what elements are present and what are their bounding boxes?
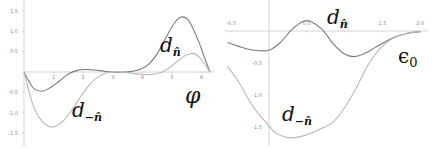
x-tick-label: 1: [52, 74, 55, 80]
label-d-minus-n: d−n̂: [72, 98, 102, 124]
plot-left: 1234561.51.00.5-0.5-1.0-1.5dn̂d−n̂φ: [8, 0, 214, 146]
series-d-minus-n-line: [227, 32, 420, 138]
x-tick-label: 1.5: [378, 20, 386, 26]
x-tick-label: 6: [200, 74, 203, 80]
x-tick-label: 3: [111, 74, 114, 80]
y-tick-label: -1.0: [8, 110, 18, 116]
x-axis-label: φ: [185, 83, 201, 108]
y-tick-label: -0.5: [8, 89, 18, 95]
y-tick-label: -1.5: [252, 124, 262, 130]
y-tick-label: 0.5: [10, 48, 18, 54]
y-tick-label: 1.0: [10, 28, 18, 34]
x-tick-label: 2.0: [416, 20, 424, 26]
chart-figure: 1234561.51.00.5-0.5-1.0-1.5dn̂d−n̂φ -0.5…: [0, 0, 437, 149]
y-tick-label: -1.5: [8, 130, 18, 136]
y-tick-label: 1.5: [10, 8, 18, 14]
label-d-n: dn̂: [160, 33, 181, 59]
x-tick-label: 5: [170, 74, 173, 80]
series-d-n-line: [24, 17, 210, 91]
x-axis-label: ϵ0: [398, 44, 417, 70]
label-d-n: dn̂: [327, 5, 348, 31]
label-d-minus-n: d−n̂: [282, 102, 312, 128]
x-tick-label: 2: [82, 74, 85, 80]
y-tick-label: -1.0: [252, 92, 262, 98]
x-tick-label: -0.5: [226, 20, 236, 26]
y-tick-label: -0.5: [252, 60, 262, 66]
series-d-minus-n-line: [24, 53, 210, 127]
plot-right: -0.50.51.01.52.0-0.5-1.0-1.5dn̂d−n̂ϵ0: [225, 0, 428, 146]
